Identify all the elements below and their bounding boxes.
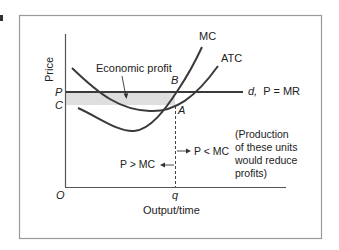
demand-label-eq: P = MR xyxy=(263,85,300,97)
demand-label: d, P = MR xyxy=(248,85,300,97)
economic-profit-area xyxy=(66,92,175,105)
atc-label: ATC xyxy=(221,52,242,64)
point-b-label: B xyxy=(171,74,178,86)
origin-label: O xyxy=(56,189,65,201)
p-greater-mc-label: P > MC xyxy=(120,158,156,170)
production-note: (Production of these units would reduce … xyxy=(234,128,300,179)
y-axis-title: Price xyxy=(43,57,55,82)
p-less-mc-label: P < MC xyxy=(194,145,230,157)
note-line-4: profits) xyxy=(235,167,267,179)
y-tick-p: P xyxy=(55,86,63,98)
profit-maximization-diagram: Economic profit MC ATC d, P = MR B A P C… xyxy=(0,0,339,250)
demand-label-d: d, xyxy=(248,85,257,97)
note-line-2: of these units xyxy=(235,141,297,153)
right-arrowhead-icon xyxy=(186,149,191,154)
note-line-1: (Production xyxy=(235,128,289,140)
point-a-label: A xyxy=(177,104,185,116)
note-line-3: would reduce xyxy=(234,154,298,166)
mc-label: MC xyxy=(199,30,216,42)
left-arrowhead-icon xyxy=(160,163,165,168)
y-tick-c: C xyxy=(55,99,63,111)
x-axis-title: Output/time xyxy=(143,204,200,216)
panel-marker xyxy=(0,15,3,21)
economic-profit-label: Economic profit xyxy=(96,62,172,74)
x-tick-q: q xyxy=(172,189,179,201)
